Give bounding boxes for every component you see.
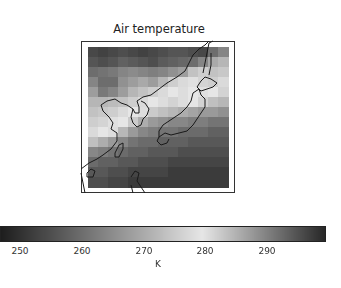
colorbar-tick-290: 290 bbox=[258, 246, 275, 256]
chart-title: Air temperature bbox=[81, 22, 237, 36]
colorbar-tick-250: 250 bbox=[11, 246, 28, 256]
colorbar-tick-260: 260 bbox=[73, 246, 90, 256]
colorbar-tick-280: 280 bbox=[196, 246, 213, 256]
colorbar bbox=[0, 226, 326, 242]
colorbar-label: K bbox=[155, 259, 161, 269]
coastline-overlay bbox=[81, 41, 235, 193]
colorbar-tick-270: 270 bbox=[135, 246, 152, 256]
